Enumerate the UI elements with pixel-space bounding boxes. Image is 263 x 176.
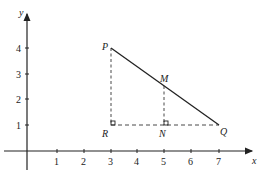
y-tick-3: 3: [16, 69, 21, 80]
right-angle-r-icon: [111, 121, 115, 125]
point-n-label: N: [158, 128, 167, 139]
x-tick-4: 4: [134, 156, 139, 167]
x-tick-6: 6: [188, 156, 193, 167]
y-tick-2: 2: [16, 94, 21, 105]
x-tick-2: 2: [81, 156, 86, 167]
point-r-label: R: [101, 128, 108, 139]
y-tick-4: 4: [16, 43, 21, 54]
x-tick-7: 7: [216, 156, 221, 167]
segment-pq: [111, 48, 219, 125]
point-q-label: Q: [220, 126, 228, 137]
point-m-label: M: [159, 73, 169, 84]
right-angle-n-icon: [164, 121, 168, 125]
y-tick-1: 1: [16, 120, 21, 131]
coordinate-diagram: x y 1 2 3 4 5 6 7 1 2 3 4 P M R N Q: [0, 0, 263, 176]
x-tick-3: 3: [108, 156, 113, 167]
x-tick-5: 5: [161, 156, 166, 167]
point-p-label: P: [101, 41, 108, 52]
x-axis-label: x: [251, 155, 257, 166]
y-axis-label: y: [18, 7, 24, 18]
x-tick-1: 1: [54, 156, 59, 167]
